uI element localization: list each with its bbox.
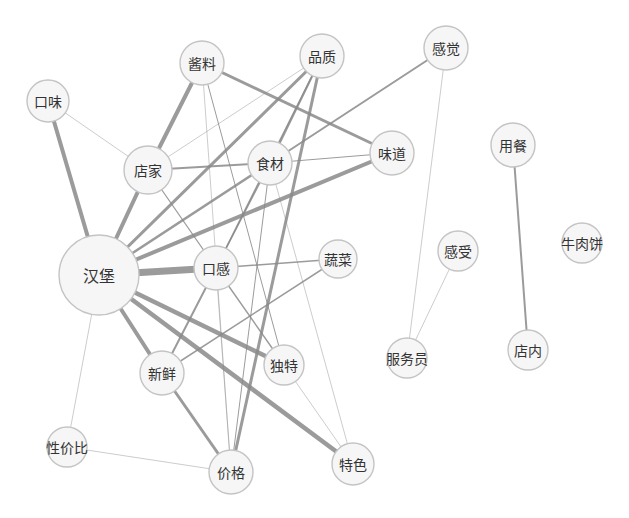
node-xingjiabi[interactable]: 性价比	[46, 427, 88, 467]
edge-ganjue-fuwuyuan	[407, 48, 446, 358]
node-yongcan[interactable]: 用餐	[491, 123, 535, 167]
node-kougan[interactable]: 口感	[194, 246, 238, 290]
node-label: 特色	[339, 457, 367, 473]
node-hanbao[interactable]: 汉堡	[59, 235, 139, 315]
node-fuwuyuan[interactable]: 服务员	[386, 338, 428, 378]
node-label: 品质	[308, 49, 336, 65]
node-label: 口味	[34, 94, 62, 110]
edge-hanbao-tese	[99, 275, 353, 464]
node-label: 感觉	[432, 41, 460, 57]
node-dute[interactable]: 独特	[264, 345, 304, 385]
node-diannei[interactable]: 店内	[508, 330, 548, 370]
edge-xingjiabi-jiage	[67, 447, 231, 472]
edge-shicai-ganjue	[270, 48, 446, 163]
node-label: 感受	[444, 244, 472, 260]
node-jiage[interactable]: 价格	[209, 450, 253, 494]
node-label: 食材	[256, 156, 284, 172]
node-label: 牛肉饼	[561, 236, 603, 252]
node-kouwei[interactable]: 口味	[27, 80, 69, 122]
node-label: 价格	[217, 465, 245, 481]
node-label: 酱料	[188, 56, 216, 72]
node-label: 新鲜	[148, 366, 176, 382]
node-pinzhi[interactable]: 品质	[300, 34, 344, 78]
node-shicai[interactable]: 食材	[248, 141, 292, 185]
node-label: 店家	[134, 163, 162, 179]
node-label: 蔬菜	[324, 252, 352, 268]
node-niuroubing[interactable]: 牛肉饼	[561, 223, 603, 263]
edge-dianjia-pinzhi	[148, 56, 322, 170]
node-label: 用餐	[499, 138, 527, 154]
node-label: 口感	[202, 261, 230, 277]
node-label: 汉堡	[83, 267, 115, 286]
node-tese[interactable]: 特色	[332, 443, 374, 485]
node-jiangliao[interactable]: 酱料	[180, 41, 224, 85]
node-xinxian[interactable]: 新鲜	[140, 351, 184, 395]
node-label: 服务员	[386, 351, 428, 367]
node-ganshou[interactable]: 感受	[438, 231, 478, 271]
node-dianjia[interactable]: 店家	[124, 146, 172, 194]
node-weidao[interactable]: 味道	[370, 131, 414, 175]
network-graph: 汉堡口味酱料品质感觉店家食材味道口感蔬菜新鲜独特性价比价格特色用餐感受牛肉饼服务…	[0, 0, 629, 518]
node-label: 味道	[378, 146, 406, 162]
node-shucai[interactable]: 蔬菜	[319, 240, 357, 278]
node-label: 店内	[514, 343, 542, 359]
node-ganjue[interactable]: 感觉	[424, 26, 468, 70]
edge-yongcan-diannei	[513, 145, 528, 350]
edge-shicai-tese	[270, 163, 353, 464]
node-label: 性价比	[46, 440, 88, 456]
node-label: 独特	[270, 358, 298, 374]
